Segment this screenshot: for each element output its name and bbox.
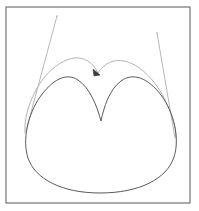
figure-container — [0, 0, 199, 211]
endpoint-dot-right — [156, 32, 157, 33]
endpoint-dot-left — [56, 15, 57, 16]
geometric-figure — [0, 0, 199, 211]
